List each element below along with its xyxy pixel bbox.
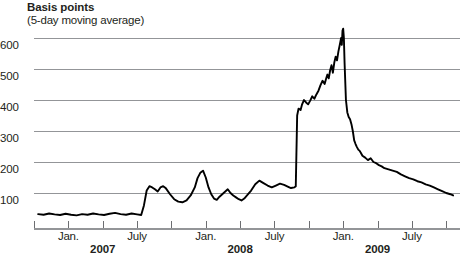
- x-tick-label: Jan.: [195, 230, 216, 242]
- x-tick-label: July: [265, 230, 285, 242]
- x-year-label-2007: 2007: [90, 243, 115, 255]
- x-tick: [206, 221, 207, 228]
- chart-container: Basis points (5-day moving average) 1002…: [0, 0, 470, 263]
- x-year-label-2009: 2009: [365, 243, 390, 255]
- x-tick-label: July: [127, 230, 147, 242]
- x-tick: [68, 221, 69, 228]
- x-tick-label: Jan.: [333, 230, 354, 242]
- x-tick: [309, 221, 310, 228]
- x-tick: [446, 221, 447, 228]
- x-axis-line: [34, 228, 460, 230]
- x-tick: [240, 221, 241, 228]
- x-tick: [412, 221, 413, 228]
- x-tick: [343, 221, 344, 228]
- data-series-line: [0, 0, 470, 263]
- x-tick-label: July: [402, 230, 422, 242]
- x-tick: [274, 221, 275, 228]
- x-tick: [378, 221, 379, 228]
- x-year-label-2008: 2008: [228, 243, 253, 255]
- x-tick: [103, 221, 104, 228]
- series-path: [38, 29, 453, 216]
- x-tick-label: Jan.: [58, 230, 79, 242]
- x-tick: [137, 221, 138, 228]
- x-tick: [171, 221, 172, 228]
- x-tick: [34, 221, 35, 228]
